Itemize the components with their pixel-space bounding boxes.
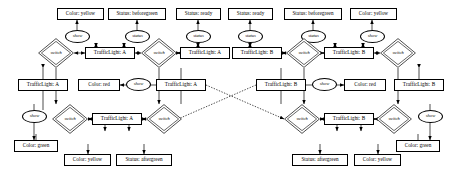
attribute-label: show	[426, 114, 435, 119]
relationship-label: switch	[392, 51, 403, 55]
value-node-v_status_aftergreen_bl[interactable]: Status: aftergreen	[116, 154, 172, 166]
attribute-label: show	[134, 82, 143, 87]
value-node-v_color_yellow_tl[interactable]: Color: yellow	[57, 8, 104, 20]
entity-node-e_tl_a_r3[interactable]: TrafficLight: A	[18, 79, 68, 91]
attribute-label: status	[245, 34, 256, 39]
value-node-v_status_beforegreen_tr[interactable]: Status: beforegreen	[284, 8, 342, 20]
entity-node-e_tl_a_r3b[interactable]: TrafficLight: A	[156, 79, 206, 91]
value-node-v_status_beforegreen_tl[interactable]: Status: beforegreen	[108, 8, 166, 20]
value-label: Status: ready	[185, 11, 213, 16]
relationship-node-r_switch_r4_m[interactable]: switch	[146, 104, 182, 134]
relationship-label: switch	[153, 51, 164, 55]
entity-label: TrafficLight: B	[403, 82, 435, 87]
value-node-v_status_ready_left[interactable]: Status: ready	[176, 8, 221, 20]
value-node-v_color_red_l[interactable]: Color: red	[78, 79, 120, 91]
relationship-node-r_switch_r2_m2[interactable]: switch	[286, 38, 322, 68]
attribute-label: show	[30, 114, 39, 119]
relationship-node-r_switch_r2_m[interactable]: switch	[141, 38, 177, 68]
value-node-v_color_yellow_tr[interactable]: Color: yellow	[350, 8, 397, 20]
attribute-label: show	[73, 34, 82, 39]
entity-node-e_tl_a_r2b[interactable]: TrafficLight: A	[180, 47, 230, 59]
value-node-v_color_green_br[interactable]: Color: green	[396, 140, 440, 152]
entity-node-e_tl_b_r2b[interactable]: TrafficLight: B	[324, 47, 374, 59]
relationship-node-r_switch_r4_r[interactable]: switch	[376, 104, 412, 134]
relationship-node-r_switch_r2_r[interactable]: switch	[380, 38, 416, 68]
entity-label: TrafficLight: A	[94, 50, 126, 55]
attribute-node-a_show_r4l[interactable]: show	[22, 110, 47, 123]
value-label: Status: aftergreen	[125, 157, 162, 162]
value-label: Status: beforegreen	[116, 11, 157, 16]
relationship-node-r_switch_r4_l[interactable]: switch	[52, 104, 88, 134]
value-label: Color: yellow	[359, 11, 388, 16]
relationship-node-r_switch_r4_m2[interactable]: switch	[284, 104, 320, 134]
entity-node-e_tl_a_r4[interactable]: TrafficLight: A	[92, 113, 142, 125]
relationship-label: switch	[296, 117, 307, 121]
entity-node-e_tl_b_r4[interactable]: TrafficLight: B	[324, 113, 374, 125]
entity-label: TrafficLight: B	[333, 50, 365, 55]
relationship-node-r_switch_r2_l[interactable]: switch	[38, 38, 74, 68]
value-label: Color: green	[23, 143, 50, 148]
entity-label: TrafficLight: A	[101, 116, 133, 121]
entity-node-e_tl_b_r2[interactable]: TrafficLight: B	[232, 47, 282, 59]
value-label: Color: yellow	[73, 157, 102, 162]
value-label: Color: green	[405, 143, 432, 148]
value-node-v_color_red_r[interactable]: Color: red	[344, 79, 386, 91]
relationship-label: switch	[50, 51, 61, 55]
relationship-label: switch	[388, 117, 399, 121]
attribute-label: show	[368, 34, 377, 39]
entity-node-e_tl_b_r3b[interactable]: TrafficLight: B	[394, 79, 444, 91]
value-node-v_color_green_bl[interactable]: Color: green	[14, 140, 58, 152]
entity-label: TrafficLight: B	[333, 116, 365, 121]
value-label: Color: yellow	[66, 11, 95, 16]
entity-node-e_tl_b_r3[interactable]: TrafficLight: B	[256, 79, 306, 91]
relationship-label: switch	[64, 117, 75, 121]
value-node-v_status_ready_right[interactable]: Status: ready	[228, 8, 273, 20]
attribute-label: show	[320, 82, 329, 87]
value-label: Status: ready	[237, 11, 265, 16]
attribute-node-a_show_r3r[interactable]: show	[312, 78, 337, 91]
value-node-v_color_yellow_bl[interactable]: Color: yellow	[64, 154, 111, 166]
entity-label: TrafficLight: B	[265, 82, 297, 87]
er-diagram: Color: yellowStatus: beforegreenStatus: …	[0, 0, 454, 173]
entity-label: TrafficLight: A	[165, 82, 197, 87]
value-label: Status: beforegreen	[292, 11, 333, 16]
value-node-v_status_aftergreen_br[interactable]: Status: aftergreen	[292, 154, 348, 166]
attribute-node-a_status_t3[interactable]: status	[238, 30, 263, 43]
entity-node-e_tl_a_r2[interactable]: TrafficLight: A	[85, 47, 135, 59]
attribute-node-a_show_r3l[interactable]: show	[126, 78, 151, 91]
entity-label: TrafficLight: B	[241, 50, 273, 55]
attribute-node-a_status_t2[interactable]: status	[186, 30, 211, 43]
value-label: Color: yellow	[363, 157, 392, 162]
value-label: Color: red	[88, 82, 110, 87]
relationship-label: switch	[158, 117, 169, 121]
relationship-label: switch	[298, 51, 309, 55]
entity-label: TrafficLight: A	[27, 82, 59, 87]
attribute-node-a_show_r4r[interactable]: show	[418, 110, 443, 123]
attribute-label: status	[193, 34, 204, 39]
value-label: Status: aftergreen	[301, 157, 338, 162]
value-node-v_color_yellow_br[interactable]: Color: yellow	[354, 154, 401, 166]
value-label: Color: red	[354, 82, 376, 87]
entity-label: TrafficLight: A	[189, 50, 221, 55]
